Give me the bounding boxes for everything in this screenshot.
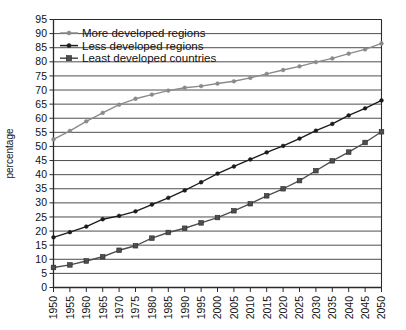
x-tick-label: 1965: [97, 296, 109, 320]
data-point: [347, 52, 351, 56]
data-point: [183, 86, 187, 90]
data-point: [363, 140, 368, 145]
data-point: [51, 265, 56, 270]
legend-marker-square: [66, 56, 71, 61]
chart-figure: 0510152025303540455055606570758085909519…: [0, 0, 406, 330]
x-tick-label: 2025: [293, 296, 305, 320]
y-tick-label: 95: [35, 13, 47, 25]
data-point: [117, 103, 121, 107]
data-point: [183, 189, 187, 193]
data-point: [199, 221, 204, 226]
data-point: [363, 106, 367, 110]
data-point: [330, 57, 334, 61]
data-point: [150, 93, 154, 97]
y-tick-label: 50: [35, 140, 47, 152]
series-line: [54, 132, 382, 268]
y-tick-label: 75: [35, 70, 47, 82]
data-point: [265, 72, 269, 76]
x-tick-label: 2045: [359, 296, 371, 320]
data-point: [298, 137, 302, 141]
x-tick-label: 1980: [146, 296, 158, 320]
legend-label: More developed regions: [82, 27, 206, 39]
data-point: [68, 230, 72, 234]
x-axis: 1950195519601965197019751980198519901995…: [47, 288, 387, 320]
x-tick-label: 2010: [244, 296, 256, 320]
x-tick-label: 2035: [326, 296, 338, 320]
y-tick-label: 40: [35, 168, 47, 180]
y-axis: 05101520253035404550556065707580859095: [35, 13, 53, 293]
data-point: [52, 137, 56, 141]
population-urbanization-line-chart: 0510152025303540455055606570758085909519…: [0, 0, 406, 330]
data-point: [380, 99, 384, 103]
y-tick-label: 60: [35, 112, 47, 124]
x-tick-label: 1960: [80, 296, 92, 320]
y-tick-label: 25: [35, 211, 47, 223]
y-tick-label: 90: [35, 27, 47, 39]
legend-label: Less developed regions: [82, 40, 204, 52]
y-axis-title: percentage: [4, 128, 15, 178]
x-tick-label: 1985: [162, 296, 174, 320]
y-tick-label: 30: [35, 196, 47, 208]
legend: More developed regionsLess developed reg…: [60, 27, 217, 64]
data-point: [166, 89, 170, 93]
legend-item[interactable]: Less developed regions: [60, 40, 204, 52]
data-point: [52, 235, 56, 239]
data-point: [101, 217, 105, 221]
data-point: [281, 68, 285, 72]
data-point: [215, 215, 220, 220]
x-tick-label: 2015: [261, 296, 273, 320]
data-point: [101, 111, 105, 115]
data-point: [100, 254, 105, 259]
x-tick-label: 1950: [47, 296, 59, 320]
data-point: [298, 64, 302, 68]
data-point: [330, 122, 334, 126]
series-3: [51, 129, 384, 269]
data-point: [133, 243, 138, 248]
data-point: [297, 178, 302, 183]
data-point: [84, 259, 89, 264]
x-tick-label: 1975: [129, 296, 141, 320]
y-tick-label: 35: [35, 182, 47, 194]
data-point: [68, 263, 73, 268]
data-point: [134, 97, 138, 101]
legend-item[interactable]: Least developed countries: [60, 52, 217, 64]
y-tick-label: 65: [35, 98, 47, 110]
legend-item[interactable]: More developed regions: [60, 27, 206, 39]
data-point: [117, 248, 122, 253]
data-point: [216, 82, 220, 86]
data-point: [134, 209, 138, 213]
data-point: [166, 196, 170, 200]
data-point: [199, 180, 203, 184]
y-tick-label: 20: [35, 225, 47, 237]
y-tick-label: 55: [35, 126, 47, 138]
data-point: [281, 144, 285, 148]
data-point: [216, 172, 220, 176]
y-tick-label: 80: [35, 55, 47, 67]
x-tick-label: 2030: [310, 296, 322, 320]
data-point: [84, 119, 88, 123]
y-tick-label: 45: [35, 154, 47, 166]
data-point: [248, 76, 252, 80]
data-point: [346, 150, 351, 155]
x-tick-label: 2040: [343, 296, 355, 320]
data-point: [182, 226, 187, 231]
data-point: [68, 129, 72, 133]
y-tick-label: 10: [35, 253, 47, 265]
data-point: [84, 225, 88, 229]
data-point: [314, 60, 318, 64]
data-point: [265, 150, 269, 154]
x-tick-label: 2020: [277, 296, 289, 320]
data-point: [330, 159, 335, 164]
data-point: [248, 158, 252, 162]
data-point: [150, 236, 155, 241]
x-tick-label: 2000: [211, 296, 223, 320]
y-tick-label: 15: [35, 239, 47, 251]
data-point: [166, 230, 171, 235]
data-point: [363, 48, 367, 52]
data-point: [232, 208, 237, 213]
legend-label: Least developed countries: [82, 52, 217, 64]
legend-marker-circle: [67, 44, 71, 48]
data-point: [379, 129, 384, 134]
data-point: [314, 129, 318, 133]
data-point: [264, 194, 269, 199]
